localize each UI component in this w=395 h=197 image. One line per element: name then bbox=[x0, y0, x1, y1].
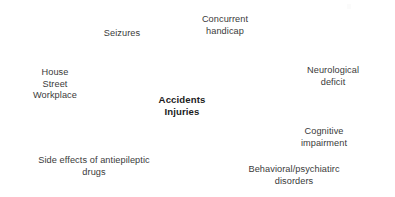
node-house-street-workplace: House Street Workplace bbox=[33, 67, 77, 102]
node-behavioral-psychiatric-disorders: Behavioral/psychiatirc disorders bbox=[248, 164, 339, 187]
node-accidents-injuries: Accidents Injuries bbox=[159, 94, 206, 118]
scan-artifact-speck bbox=[347, 4, 351, 9]
node-cognitive-impairment: Cognitive impairment bbox=[289, 126, 360, 149]
node-side-effects-antiepileptic-drugs: Side effects of antiepileptic drugs bbox=[38, 155, 149, 178]
node-concurrent-handicap: Concurrent handicap bbox=[202, 14, 248, 37]
node-neurological-deficit: Neurological deficit bbox=[302, 65, 364, 88]
node-seizures: Seizures bbox=[104, 28, 140, 40]
concept-diagram-canvas: Seizures Concurrent handicap House Stree… bbox=[0, 0, 395, 197]
